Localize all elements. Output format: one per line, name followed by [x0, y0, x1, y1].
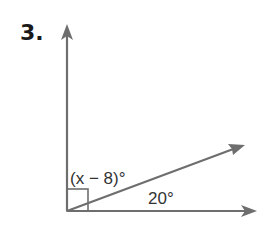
angle-diagram: (x − 8)° 20° — [0, 0, 270, 229]
upper-angle-label: (x − 8)° — [70, 169, 125, 188]
lower-angle-label: 20° — [148, 189, 174, 208]
